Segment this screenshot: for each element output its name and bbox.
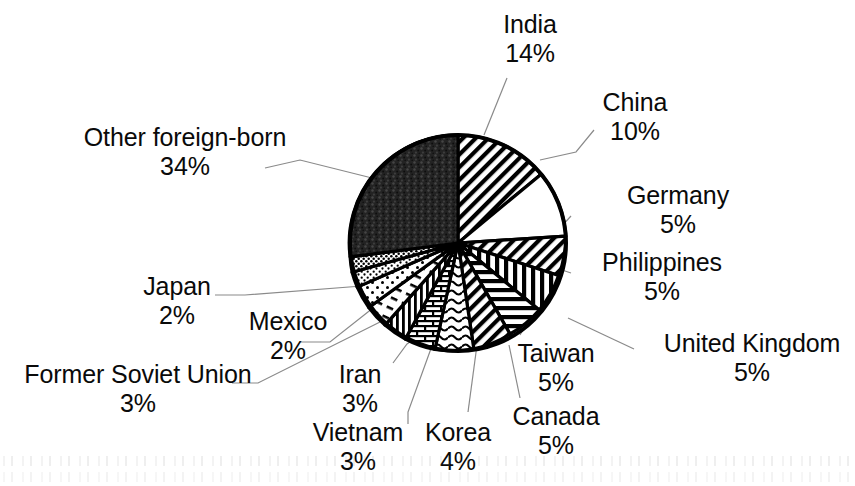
pie-label-philippines-pct: 5%: [602, 277, 722, 306]
pie-label-canada: Canada 5%: [513, 402, 600, 459]
pie-label-canada-name: Canada: [513, 402, 600, 431]
pie-label-china-name: China: [603, 88, 668, 117]
pie-label-germany-pct: 5%: [627, 210, 729, 239]
pie-label-iran-name: Iran: [339, 360, 382, 389]
pie-label-korea-name: Korea: [425, 418, 491, 447]
pie-label-other-foreign-born: Other foreign-born 34%: [84, 123, 286, 180]
leader-line-china: [540, 130, 594, 160]
pie-label-india-name: India: [503, 10, 557, 39]
pie-label-vietnam-pct: 3%: [313, 447, 404, 476]
pie-label-japan-name: Japan: [143, 272, 211, 301]
pie-label-former-soviet-union-name: Former Soviet Union: [24, 360, 251, 389]
pie-label-united-kingdom-pct: 5%: [664, 358, 840, 387]
pie-label-other-foreign-born-pct: 34%: [84, 152, 286, 181]
pie-label-china: China 10%: [603, 88, 668, 145]
pie-label-united-kingdom-name: United Kingdom: [664, 329, 840, 358]
leader-line-iran: [393, 340, 413, 363]
pie-chart-figure: India 14% China 10% Germany 5% Philippin…: [0, 0, 855, 486]
leader-line-india: [484, 78, 507, 135]
pie-label-taiwan: Taiwan 5%: [517, 339, 594, 396]
pie-label-germany: Germany 5%: [627, 181, 729, 238]
pie-label-iran: Iran 3%: [339, 360, 382, 417]
pie-label-taiwan-name: Taiwan: [517, 339, 594, 368]
pie-label-other-foreign-born-name: Other foreign-born: [84, 123, 286, 152]
pie-label-vietnam: Vietnam 3%: [313, 418, 404, 475]
pie-label-mexico-pct: 2%: [249, 336, 328, 365]
pie-label-japan: Japan 2%: [143, 272, 211, 329]
leader-line-korea: [468, 345, 477, 412]
pie-label-philippines: Philippines 5%: [602, 248, 722, 305]
pie-label-india: India 14%: [503, 10, 557, 67]
pie-label-former-soviet-union-pct: 3%: [24, 389, 251, 418]
pie-label-former-soviet-union: Former Soviet Union 3%: [24, 360, 251, 417]
pie-slice-other-foreign-born-body[interactable]: [349, 135, 458, 257]
pie-label-united-kingdom: United Kingdom 5%: [664, 329, 840, 386]
pie-label-korea: Korea 4%: [425, 418, 491, 475]
pie-label-iran-pct: 3%: [339, 389, 382, 418]
leader-line-japan: [215, 286, 362, 295]
pie-label-japan-pct: 2%: [143, 301, 211, 330]
pie-label-korea-pct: 4%: [425, 447, 491, 476]
pie-label-philippines-name: Philippines: [602, 248, 722, 277]
pie-label-india-pct: 14%: [503, 39, 557, 68]
pie-label-mexico-name: Mexico: [249, 307, 328, 336]
pie-label-germany-name: Germany: [627, 181, 729, 210]
pie-label-china-pct: 10%: [603, 117, 668, 146]
pie-label-canada-pct: 5%: [513, 431, 600, 460]
pie-label-vietnam-name: Vietnam: [313, 418, 404, 447]
leader-line-vietnam: [408, 343, 433, 424]
pie-label-taiwan-pct: 5%: [517, 368, 594, 397]
pie-label-mexico: Mexico 2%: [249, 307, 328, 364]
